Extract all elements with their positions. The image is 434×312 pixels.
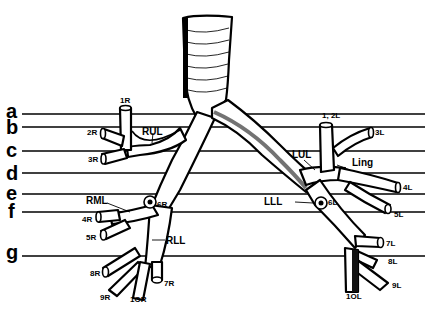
- segment-4r-orifice: [96, 212, 101, 222]
- label-9r: 9R: [100, 293, 110, 302]
- label-rul: RUL: [142, 126, 163, 137]
- label-8l: 8L: [388, 257, 397, 266]
- segment-5l-orifice: [385, 205, 391, 214]
- label-7r: 7R: [164, 279, 174, 288]
- segment-2r-orifice: [101, 129, 106, 139]
- label-10r: 1OR: [130, 295, 147, 304]
- level-letter-g: g: [6, 241, 18, 263]
- segment-1r-orifice: [120, 106, 131, 111]
- label-3r: 3R: [88, 155, 98, 164]
- label-5r: 5R: [86, 233, 96, 242]
- label-2r: 2R: [87, 128, 97, 137]
- label-8r: 8R: [90, 269, 100, 278]
- bronchial-tree-diagram: a b c d e f g: [0, 0, 434, 312]
- level-letter-f: f: [8, 200, 15, 222]
- lll-leader: [295, 202, 313, 203]
- segment-5r-orifice: [101, 230, 107, 240]
- label-6l: 6L: [328, 198, 337, 207]
- label-5l: 5L: [394, 210, 403, 219]
- label-rll: RLL: [166, 235, 185, 246]
- label-4l: 4L: [403, 183, 412, 192]
- label-rml: RML: [86, 195, 108, 206]
- segment-7r-orifice: [152, 277, 162, 283]
- label-9l: 9L: [392, 281, 401, 290]
- segment-3l-orifice: [369, 128, 374, 138]
- segment-4l-orifice: [396, 183, 401, 193]
- segment-12l-bronchus: [320, 125, 334, 172]
- label-3l: 3L: [375, 128, 384, 137]
- segment-3r-orifice: [101, 154, 106, 164]
- segment-7l-bronchus: [355, 236, 380, 247]
- segment-7l-orifice: [378, 238, 384, 248]
- level-letters: a b c d e f g: [6, 100, 18, 263]
- label-10l: 1OL: [346, 292, 362, 301]
- level-letter-b: b: [6, 116, 18, 138]
- label-6r: 6R: [157, 200, 167, 209]
- label-lll: LLL: [264, 196, 282, 207]
- level-letter-d: d: [6, 162, 18, 184]
- label-1r: 1R: [120, 96, 130, 105]
- label-7l: 7L: [386, 239, 395, 248]
- label-ling: Ling: [352, 157, 373, 168]
- level-letter-c: c: [6, 139, 17, 161]
- segment-8r-orifice: [103, 267, 109, 277]
- label-12l: 1, 2L: [322, 111, 340, 120]
- label-4r: 4R: [82, 215, 92, 224]
- segment-12l-orifice: [320, 123, 332, 128]
- label-lul: LUL: [292, 149, 311, 160]
